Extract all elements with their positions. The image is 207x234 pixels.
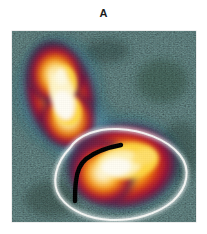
intensity-map-svg xyxy=(12,31,196,222)
raster-grain-overlay xyxy=(12,31,196,222)
panel-label: A xyxy=(0,7,207,20)
false-color-image-panel xyxy=(12,31,196,222)
figure-panel-a: A xyxy=(0,0,207,234)
